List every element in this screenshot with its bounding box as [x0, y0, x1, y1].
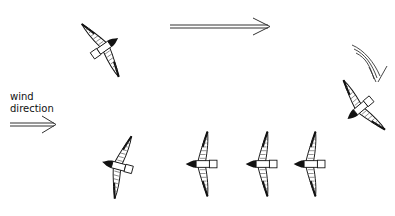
bird-3-bottom — [294, 132, 325, 197]
bird-5-bottom — [186, 132, 217, 197]
bird-2-right-turning — [327, 74, 393, 144]
bird-6-bottom-left — [94, 131, 141, 202]
bird-4-bottom — [246, 132, 277, 197]
turn-arrow — [352, 45, 387, 82]
flight-path-arrow — [170, 18, 270, 35]
bird-1-top-left — [74, 11, 137, 82]
diagram-drawing — [0, 0, 395, 216]
wind-direction-arrow — [10, 116, 56, 133]
bird-flight-diagram: wind direction — [0, 0, 395, 216]
